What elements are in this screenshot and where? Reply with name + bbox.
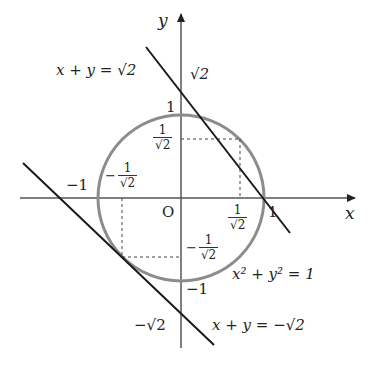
x-tick-neg-one: −1 xyxy=(66,178,88,193)
origin-label: O xyxy=(162,205,174,220)
lower-line-intercept: −√2 xyxy=(134,318,166,333)
y-tick-neg-one: −1 xyxy=(186,282,208,297)
upper-line-intercept: √2 xyxy=(190,67,209,82)
x-tick-one: 1 xyxy=(268,205,278,220)
y-axis-label: y xyxy=(158,12,168,29)
x-axis-label: x xyxy=(345,205,355,222)
upper-line-equation: x + y = √2 xyxy=(56,63,136,78)
y-tick-one: 1 xyxy=(166,100,176,115)
x-tick-pos-frac: 1 √2 xyxy=(226,204,247,231)
circle-equation: x² + y² = 1 xyxy=(232,267,315,282)
x-tick-neg-frac: − 1 √2 xyxy=(105,162,137,189)
y-tick-pos-frac: 1 √2 xyxy=(151,124,172,151)
unit-circle-tangent-diagram: y x O x + y = √2 √2 x² + y² = 1 x + y = … xyxy=(0,0,371,379)
y-tick-neg-frac: − 1 √2 xyxy=(186,234,218,261)
lower-line-equation: x + y = −√2 xyxy=(212,318,305,333)
diagram-canvas xyxy=(0,0,371,379)
